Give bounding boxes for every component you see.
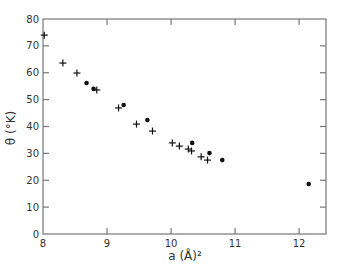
cross-marker xyxy=(204,157,211,164)
axis-tick-labels: 8910111201020304050607080 xyxy=(26,14,305,250)
dot-marker xyxy=(145,118,150,123)
cross-marker xyxy=(133,121,140,128)
y-tick-label: 50 xyxy=(26,94,39,105)
cross-marker xyxy=(149,128,156,135)
cross-marker xyxy=(169,139,176,146)
x-axis-label: a (Å)² xyxy=(168,248,202,263)
dot-marker xyxy=(121,103,126,108)
x-tick-label: 8 xyxy=(40,238,46,249)
cross-marker xyxy=(59,60,66,67)
dot-marker xyxy=(306,182,311,187)
y-axis-label: θ (°K) xyxy=(4,111,18,145)
y-tick-label: 60 xyxy=(26,67,39,78)
data-markers xyxy=(41,32,311,187)
cross-marker xyxy=(176,143,183,150)
cross-marker xyxy=(198,153,205,160)
cross-marker xyxy=(115,104,122,111)
x-tick-label: 12 xyxy=(293,238,306,249)
dot-marker xyxy=(220,158,225,163)
dot-marker xyxy=(207,151,212,156)
dot-marker xyxy=(190,141,195,146)
x-tick-label: 9 xyxy=(104,238,110,249)
axis-ticks xyxy=(43,19,326,234)
y-tick-label: 80 xyxy=(26,14,39,25)
y-tick-label: 0 xyxy=(33,229,39,240)
dot-marker xyxy=(91,87,96,92)
y-tick-label: 40 xyxy=(26,121,39,132)
y-tick-label: 30 xyxy=(26,148,39,159)
y-tick-label: 10 xyxy=(26,202,39,213)
cross-marker xyxy=(41,32,48,39)
cross-marker xyxy=(73,70,80,77)
scatter-chart: 8910111201020304050607080 a (Å)² θ (°K) xyxy=(0,0,341,275)
x-tick-label: 10 xyxy=(165,238,178,249)
x-tick-label: 11 xyxy=(229,238,242,249)
y-tick-label: 70 xyxy=(26,40,39,51)
y-tick-label: 20 xyxy=(26,175,39,186)
plot-frame xyxy=(43,19,326,234)
dot-marker xyxy=(84,81,89,86)
